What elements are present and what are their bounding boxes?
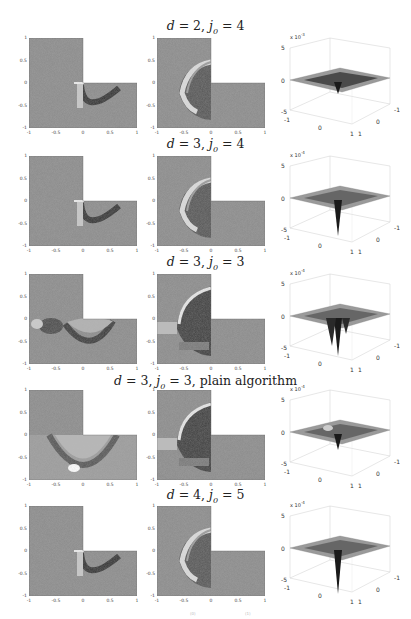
y-tick-label: 0 bbox=[145, 198, 155, 203]
y3d-tick-label: -1 bbox=[394, 342, 400, 349]
y-tick-label: -0.5 bbox=[145, 339, 155, 344]
y3d-tick-label: -1 bbox=[394, 458, 400, 465]
d-value: = 2, bbox=[175, 18, 209, 33]
y-tick-label: 0.5 bbox=[17, 58, 27, 63]
footer-mark: (1) bbox=[245, 611, 251, 616]
y-tick-label: 0.5 bbox=[145, 294, 155, 299]
z-tick-label: 0 bbox=[281, 313, 285, 320]
y3d-tick-label: 0 bbox=[376, 470, 380, 477]
x3d-tick-label: 0 bbox=[318, 476, 322, 483]
z-tick-label: -5 bbox=[281, 576, 287, 583]
x3d-tick-label: -1 bbox=[284, 234, 290, 241]
j0-symbol: j0 bbox=[209, 254, 218, 269]
x-tick-label: -0.5 bbox=[177, 598, 191, 603]
z-tick-label: 5 bbox=[281, 280, 285, 287]
z-tick-label: -5 bbox=[281, 344, 287, 351]
x-tick-label: 0.5 bbox=[231, 598, 245, 603]
x-tick-label: -0.5 bbox=[177, 248, 191, 253]
x-tick-label: 0 bbox=[204, 598, 218, 603]
3d-surface-plot: x 10-450-5-101-101 bbox=[282, 148, 400, 256]
x-tick-label: 0 bbox=[76, 366, 90, 371]
y-tick-label: 0.5 bbox=[17, 410, 27, 415]
x-tick-label: 0.5 bbox=[231, 366, 245, 371]
y3d-tick-label: -1 bbox=[394, 106, 400, 113]
j0-symbol: j0 bbox=[156, 373, 165, 388]
y-tick-label: 0 bbox=[145, 432, 155, 437]
y-tick-label: 0.5 bbox=[17, 176, 27, 181]
x-tick-label: -0.5 bbox=[49, 130, 63, 135]
x-tick-label: 1 bbox=[258, 598, 272, 603]
y-tick-label: 0.5 bbox=[145, 58, 155, 63]
middle-2d-plot: 10.50-0.5-1-1-0.500.51 bbox=[157, 274, 265, 364]
y3d-tick-label: 0 bbox=[376, 236, 380, 243]
l-domain-image bbox=[29, 506, 137, 596]
z-tick-label: 5 bbox=[281, 44, 285, 51]
z-exponent-label: x 10-4 bbox=[290, 268, 305, 276]
j0-value: = 5 bbox=[218, 487, 244, 502]
l-domain-image bbox=[29, 274, 137, 364]
x3d-tick-label: 0 bbox=[318, 592, 322, 599]
left-2d-plot: 10.50-0.5-1-1-0.500.51 bbox=[29, 156, 137, 246]
l-domain-image bbox=[29, 156, 137, 246]
y-tick-label: 1 bbox=[145, 503, 155, 508]
y-tick-label: 0 bbox=[145, 80, 155, 85]
j0-symbol: j0 bbox=[209, 136, 218, 151]
z-exponent: -3 bbox=[301, 32, 305, 37]
y-tick-label: -0.5 bbox=[145, 221, 155, 226]
middle-2d-plot: 10.50-0.5-1-1-0.500.51 bbox=[157, 38, 265, 128]
left-2d-plot: 10.50-0.5-1-1-0.500.51 bbox=[29, 38, 137, 128]
y-tick-label: 0 bbox=[17, 432, 27, 437]
y-tick-label: -0.5 bbox=[17, 455, 27, 460]
x3d-tick-label: 0 bbox=[318, 360, 322, 367]
l-domain-image bbox=[157, 390, 265, 480]
y3d-tick-label: 1 bbox=[358, 598, 362, 605]
y-tick-label: 0 bbox=[17, 548, 27, 553]
x-tick-label: 1 bbox=[130, 366, 144, 371]
middle-2d-plot: 10.50-0.5-1-1-0.500.51 bbox=[157, 156, 265, 246]
d-symbol: d bbox=[167, 487, 175, 502]
x3d-tick-label: -1 bbox=[284, 468, 290, 475]
z-tick-label: 0 bbox=[281, 429, 285, 436]
x-tick-label: 1 bbox=[130, 130, 144, 135]
z-prefix: x 10 bbox=[290, 270, 301, 276]
x-tick-label: -1 bbox=[150, 366, 164, 371]
z-exponent: -4 bbox=[301, 500, 305, 505]
j0-symbol: j0 bbox=[209, 18, 218, 33]
y-tick-label: -0.5 bbox=[145, 455, 155, 460]
d-symbol: d bbox=[167, 136, 175, 151]
y-tick-label: 1 bbox=[145, 153, 155, 158]
z-exponent: -4 bbox=[301, 268, 305, 273]
left-2d-plot: 10.50-0.5-1-1-0.500.51 bbox=[29, 506, 137, 596]
l-domain-image bbox=[29, 38, 137, 128]
x3d-tick-label: -1 bbox=[284, 116, 290, 123]
x3d-tick-label: -1 bbox=[284, 584, 290, 591]
x-tick-label: 0 bbox=[204, 248, 218, 253]
x-tick-label: 0.5 bbox=[231, 248, 245, 253]
x-tick-label: 1 bbox=[130, 598, 144, 603]
l-domain-image bbox=[157, 38, 265, 128]
x-tick-label: -0.5 bbox=[177, 130, 191, 135]
x-tick-label: -1 bbox=[22, 598, 36, 603]
y-tick-label: 0.5 bbox=[145, 526, 155, 531]
y-tick-label: 0 bbox=[17, 80, 27, 85]
y3d-tick-label: 0 bbox=[376, 354, 380, 361]
l-domain-image bbox=[29, 390, 137, 480]
x3d-tick-label: -1 bbox=[284, 352, 290, 359]
x-tick-label: -0.5 bbox=[49, 598, 63, 603]
x-tick-label: 0 bbox=[204, 366, 218, 371]
d-symbol: d bbox=[114, 373, 122, 388]
x3d-tick-label: 0 bbox=[318, 242, 322, 249]
x-tick-label: 0.5 bbox=[103, 248, 117, 253]
y-tick-label: -0.5 bbox=[145, 103, 155, 108]
j0-value: = 4 bbox=[218, 136, 244, 151]
x-tick-label: 0.5 bbox=[103, 366, 117, 371]
x-tick-label: 0.5 bbox=[231, 130, 245, 135]
d-symbol: d bbox=[167, 254, 175, 269]
y-tick-label: -0.5 bbox=[17, 221, 27, 226]
y-tick-label: 1 bbox=[17, 387, 27, 392]
y-tick-label: 0.5 bbox=[17, 526, 27, 531]
j0-value: = 3, plain algorithm bbox=[165, 373, 297, 388]
y-tick-label: 0 bbox=[145, 316, 155, 321]
z-prefix: x 10 bbox=[290, 34, 301, 40]
x-tick-label: -1 bbox=[22, 130, 36, 135]
